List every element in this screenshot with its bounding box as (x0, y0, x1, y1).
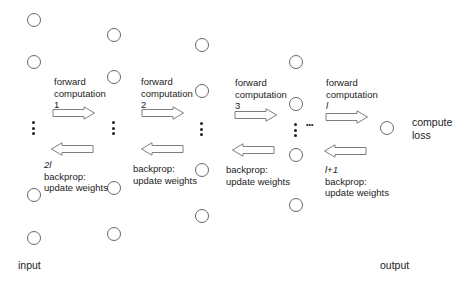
input-label: input (18, 259, 41, 272)
backward-label-3: backprop: update weights (226, 164, 290, 187)
backward-label-1: 2l backprop: update weights (44, 159, 108, 194)
compute-loss-label: compute loss (412, 116, 452, 142)
layer3-vertical-ellipsis (294, 123, 297, 137)
layer2-node-3 (195, 163, 209, 177)
layer2-node-4 (195, 209, 209, 223)
backward-label-2-line2: update weights (133, 175, 197, 187)
backward-label-4-step: l+1 (325, 164, 389, 176)
backward-label-3-line2: update weights (226, 176, 290, 188)
backward-label-1-step: 2l (44, 159, 108, 171)
backward-label-4-line1: backprop: (325, 176, 389, 188)
forward-label-1: forward computation 1 (54, 76, 106, 111)
forward-label-2-line1: forward (141, 76, 193, 88)
forward-label-1-line1: forward (54, 76, 106, 88)
forward-label-3-line1: forward (235, 77, 287, 89)
layer2-node-2 (195, 84, 209, 98)
forward-label-4-line1: forward (326, 77, 378, 89)
layer3-node-1 (289, 55, 303, 69)
layer1-vertical-ellipsis (112, 121, 115, 135)
backward-label-4-line2: update weights (325, 187, 389, 199)
forward-label-4-line2: computation (326, 89, 378, 101)
input-node-1 (27, 13, 41, 27)
forward-label-2-line2: computation (141, 88, 193, 100)
input-vertical-ellipsis (32, 121, 35, 135)
output-node (380, 121, 394, 135)
forward-label-2-step: 2 (141, 99, 193, 111)
backward-label-3-line1: backprop: (226, 164, 290, 176)
forward-label-1-step: 1 (54, 99, 106, 111)
input-node-3 (27, 188, 41, 202)
backward-arrow-icon-4 (323, 144, 367, 158)
layer3-node-4 (289, 198, 303, 212)
forward-arrow-icon-4 (325, 110, 369, 124)
layer1-node-2 (107, 70, 121, 84)
forward-label-3-step: 3 (235, 100, 287, 112)
forward-label-1-line2: computation (54, 88, 106, 100)
backward-label-2-line1: backprop: (133, 163, 197, 175)
layer2-vertical-ellipsis (200, 122, 203, 136)
forward-label-4: forward computation l (326, 77, 378, 112)
input-node-4 (27, 231, 41, 245)
forward-label-4-step: l (326, 100, 378, 112)
layer3-node-2 (289, 97, 303, 111)
layer2-node-1 (195, 38, 209, 52)
backward-label-4: l+1 backprop: update weights (325, 164, 389, 199)
backward-label-1-line1: backprop: (44, 171, 108, 183)
layer1-node-1 (107, 28, 121, 42)
horizontal-ellipsis: ••• (306, 121, 313, 128)
compute-loss-line2: loss (412, 129, 452, 142)
forward-label-3-line2: computation (235, 89, 287, 101)
layer1-node-3 (107, 181, 121, 195)
compute-loss-line1: compute (412, 116, 452, 129)
input-node-2 (27, 55, 41, 69)
backward-arrow-icon-3 (231, 143, 275, 157)
backward-label-2: backprop: update weights (133, 163, 197, 186)
forward-label-3: forward computation 3 (235, 77, 287, 112)
backward-arrow-icon-1 (50, 142, 94, 156)
layer3-node-3 (289, 148, 303, 162)
forward-label-2: forward computation 2 (141, 76, 193, 111)
output-label: output (380, 259, 409, 272)
backward-label-1-line2: update weights (44, 182, 108, 194)
backward-arrow-icon-2 (140, 142, 184, 156)
layer1-node-4 (107, 227, 121, 241)
